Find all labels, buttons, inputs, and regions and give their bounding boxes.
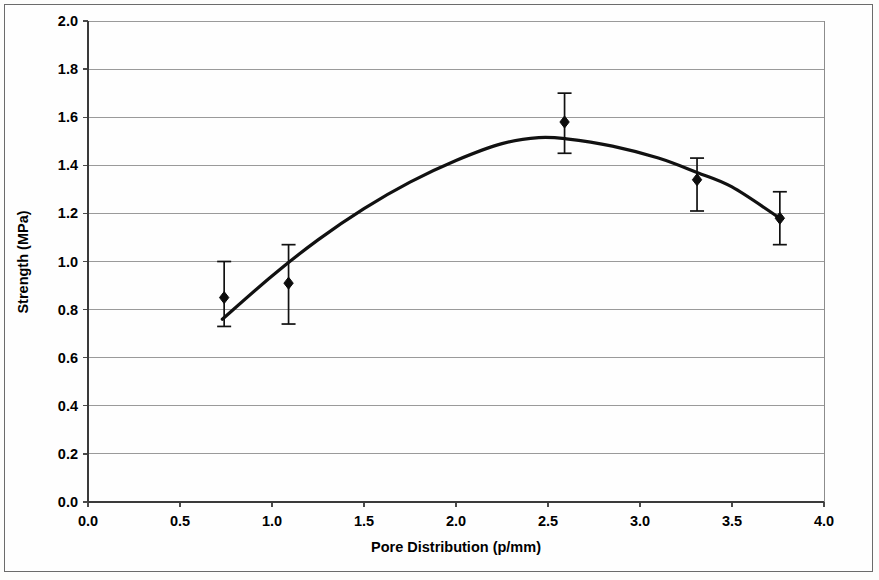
y-tick-label: 0.6: [58, 350, 78, 366]
y-tick-label: 2.0: [58, 13, 78, 29]
y-axis-title: Strength (MPa): [15, 210, 31, 313]
data-point-marker: [560, 116, 569, 128]
chart-canvas: 0.00.51.01.52.02.53.03.54.0 0.00.20.40.6…: [0, 0, 879, 580]
x-tick-label: 4.0: [814, 513, 834, 529]
y-axis-tick-labels: 0.00.20.40.60.81.01.21.41.61.82.0: [58, 13, 78, 510]
y-tick-label: 1.8: [58, 61, 78, 77]
y-tick-label: 1.4: [58, 157, 78, 173]
y-tick-label: 0.0: [58, 494, 78, 510]
x-axis-title: Pore Distribution (p/mm): [371, 539, 541, 555]
x-tick-label: 3.5: [722, 513, 742, 529]
data-point-marker: [284, 277, 293, 289]
y-tick-label: 1.6: [58, 109, 78, 125]
y-tick-label: 1.0: [58, 254, 78, 270]
x-tick-label: 3.0: [630, 513, 650, 529]
x-tick-label: 1.5: [354, 513, 374, 529]
figure-container: 0.00.51.01.52.02.53.03.54.0 0.00.20.40.6…: [0, 0, 879, 580]
x-tick-label: 0.5: [170, 513, 190, 529]
y-tick-label: 0.4: [58, 398, 78, 414]
x-axis-tick-labels: 0.00.51.01.52.02.53.03.54.0: [78, 513, 834, 529]
x-tick-label: 1.0: [262, 513, 282, 529]
x-tick-label: 2.5: [538, 513, 558, 529]
error-bars-group: [217, 93, 787, 326]
data-point-marker: [775, 212, 784, 224]
gridlines-group: [88, 21, 824, 502]
x-tick-label: 2.0: [446, 513, 466, 529]
y-tick-label: 0.2: [58, 446, 78, 462]
data-point-marker: [692, 174, 701, 186]
x-tick-label: 0.0: [78, 513, 98, 529]
data-point-marker: [219, 292, 228, 304]
y-tick-label: 1.2: [58, 205, 78, 221]
y-tick-label: 0.8: [58, 302, 78, 318]
